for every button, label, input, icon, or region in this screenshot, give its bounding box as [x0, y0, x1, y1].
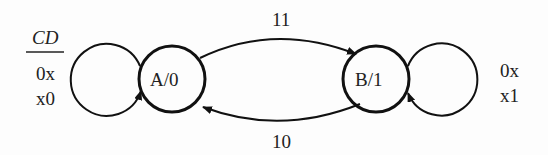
self-loop-a: [71, 44, 141, 116]
state-a-label: A/0: [150, 70, 179, 89]
self-loop-a-label-1: 0x: [36, 64, 55, 83]
input-header-label: CD: [32, 28, 58, 47]
state-b-label: B/1: [355, 70, 382, 89]
transition-b-to-a-label: 10: [272, 132, 291, 151]
self-loop-b-label-1: 0x: [500, 61, 519, 80]
transition-b-to-a: [203, 104, 360, 121]
self-loop-b-label-2: x1: [500, 86, 519, 105]
self-loop-b: [408, 43, 477, 115]
transition-a-to-b-label: 11: [272, 10, 290, 29]
self-loop-a-label-2: x0: [36, 89, 55, 108]
transition-a-to-b: [200, 39, 356, 58]
